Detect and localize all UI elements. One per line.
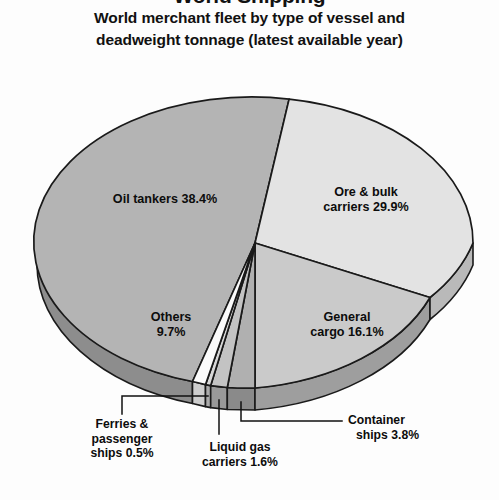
callout-label-ferries-line-1: Ferries & <box>62 417 182 432</box>
chart-canvas: World Shipping World merchant fleet by t… <box>0 0 499 500</box>
callout-label-liquid-gas: Liquid gas carriers 1.6% <box>182 440 298 469</box>
slice-label-ore-bulk-line-2: carriers 29.9% <box>306 200 426 215</box>
side-wall-others <box>193 382 206 407</box>
slice-label-general-cargo: General cargo 16.1% <box>292 310 402 340</box>
slice-label-others-line-2: 9.7% <box>128 325 214 340</box>
slice-label-oil-tankers: Oil tankers 38.4% <box>85 192 245 207</box>
slice-label-general-cargo-line-1: General <box>292 310 402 325</box>
slice-label-others-line-1: Others <box>128 310 214 325</box>
callout-label-ferries: Ferries & passenger ships 0.5% <box>62 417 182 461</box>
slice-label-others: Others 9.7% <box>128 310 214 340</box>
slice-label-ore-bulk: Ore & bulk carriers 29.9% <box>306 185 426 215</box>
callout-label-ferries-line-2: passenger <box>62 432 182 447</box>
callout-label-liquid-gas-line-2: carriers 1.6% <box>182 455 298 470</box>
callout-label-container-ships-line-1: Container <box>348 413 458 428</box>
callout-label-liquid-gas-line-1: Liquid gas <box>182 440 298 455</box>
slice-label-general-cargo-line-2: cargo 16.1% <box>292 325 402 340</box>
callout-label-container-ships-line-2: ships 3.8% <box>348 428 458 443</box>
slice-label-ore-bulk-line-1: Ore & bulk <box>306 185 426 200</box>
callout-label-container-ships: Container ships 3.8% <box>348 413 458 442</box>
slice-label-oil-tankers-line-1: Oil tankers 38.4% <box>113 192 217 206</box>
callout-label-ferries-line-3: ships 0.5% <box>62 446 182 461</box>
